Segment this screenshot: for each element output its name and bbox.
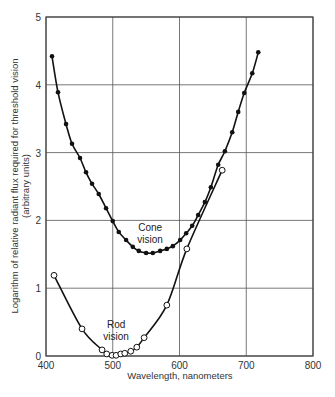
cone-vision-marker	[171, 244, 176, 249]
curve-annotations: ConevisionRodvision	[103, 222, 163, 342]
cone-vision-marker	[242, 91, 247, 96]
data-markers	[50, 50, 261, 358]
y-tick-label: 4	[35, 80, 41, 91]
cone-vision-marker	[209, 185, 214, 190]
cone-vision-marker	[184, 231, 189, 236]
y-axis-ticks: 012345	[35, 12, 41, 362]
cone-vision-marker	[90, 181, 95, 186]
cone-vision-marker	[130, 245, 135, 250]
cone-vision-marker	[110, 219, 115, 224]
rod-vision-marker	[122, 350, 128, 356]
cone-vision-marker	[144, 251, 149, 256]
x-tick-label: 700	[238, 360, 255, 371]
cone-vision-marker	[136, 249, 141, 254]
cone-vision-marker	[236, 110, 241, 115]
cone-vision-marker	[178, 238, 183, 243]
cone-vision-marker	[196, 213, 201, 218]
cone-vision-marker	[151, 251, 156, 256]
y-axis-label: Logarithm of relative radiant flux requi…	[9, 58, 20, 313]
cone-vision-marker	[50, 54, 55, 59]
cone-vision-marker	[165, 247, 170, 252]
rod-vision-marker	[219, 167, 225, 173]
y-axis-label-group: Logarithm of relative radiant flux requi…	[9, 58, 31, 313]
cone-vision-marker	[78, 156, 83, 161]
cone-vision-marker	[256, 50, 261, 55]
y-tick-label: 5	[35, 12, 41, 23]
cone-vision-marker	[230, 130, 235, 135]
annotation-cone-vision: vision	[137, 234, 163, 245]
cone-vision-marker	[216, 163, 221, 168]
y-tick-label: 1	[35, 283, 41, 294]
rod-vision-marker	[128, 348, 134, 354]
y-axis-label-units: (arbitrary units)	[20, 154, 31, 218]
rod-vision-marker	[184, 246, 190, 252]
cone-vision-marker	[203, 200, 208, 205]
cone-vision-marker	[158, 249, 163, 254]
cone-vision-marker	[64, 122, 69, 127]
x-axis-label: Wavelength, nanometers	[127, 370, 233, 381]
rod-vision-marker	[164, 302, 170, 308]
cone-vision-marker	[56, 90, 61, 95]
cone-vision-marker	[250, 71, 255, 76]
cone-vision-marker	[84, 170, 89, 175]
annotation-cone-vision: Cone	[138, 222, 162, 233]
cone-vision-marker	[104, 206, 109, 211]
rod-vision-marker	[141, 335, 147, 341]
data-curves	[52, 52, 258, 355]
x-tick-label: 500	[104, 360, 121, 371]
cone-vision-marker	[116, 230, 121, 235]
y-tick-label: 0	[35, 351, 41, 362]
threshold-vision-chart: 400500600700800 012345 ConevisionRodvisi…	[0, 0, 335, 397]
x-tick-label: 800	[305, 360, 322, 371]
rod-vision-marker	[79, 326, 85, 332]
cone-vision-marker	[223, 149, 228, 154]
cone-vision-marker	[70, 141, 75, 146]
annotation-rod-vision: Rod	[107, 319, 125, 330]
cone-vision-marker	[124, 238, 129, 243]
y-tick-label: 3	[35, 148, 41, 159]
grid-lines	[46, 17, 313, 356]
annotation-rod-vision: vision	[103, 331, 129, 342]
y-tick-label: 2	[35, 215, 41, 226]
rod-vision-marker	[134, 344, 140, 350]
rod-vision-marker	[51, 272, 57, 278]
cone-vision-marker	[96, 192, 101, 197]
cone-vision-marker	[190, 224, 195, 229]
